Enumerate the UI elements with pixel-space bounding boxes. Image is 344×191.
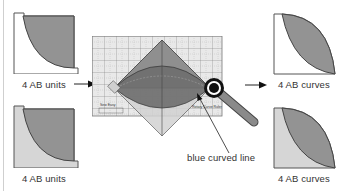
frame-border: [3, 0, 4, 191]
ab-curve-bottom: [273, 106, 337, 170]
ruler-name: Rotary Curve Ruler: [192, 105, 223, 109]
label-ab-curves-top: 4 AB curves: [278, 79, 330, 90]
label-blue-curved-line: blue curved line: [187, 152, 255, 163]
ab-unit-top: [12, 10, 80, 74]
ab-curve-top: [273, 12, 337, 76]
arrow-right-icon: [245, 81, 267, 89]
curve-ruler-illustration: Sew Easy Rotary Curve Ruler: [92, 36, 282, 166]
ruler-brand: Sew Easy: [100, 103, 116, 107]
label-ab-units-bottom: 4 AB units: [22, 173, 66, 184]
label-ab-curves-bottom: 4 AB curves: [278, 173, 330, 184]
label-ab-units-top: 4 AB units: [22, 79, 66, 90]
ab-unit-bottom: [12, 104, 80, 168]
